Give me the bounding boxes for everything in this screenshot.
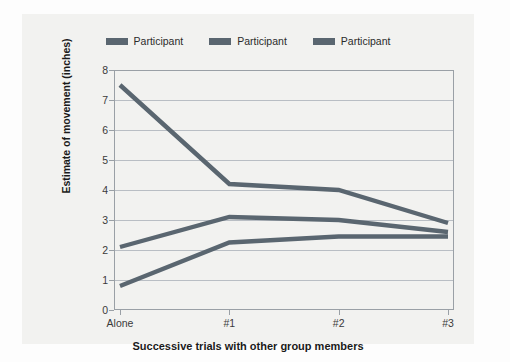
y-axis-tick-labels: 012345678 — [84, 70, 108, 310]
y-axis-tick-label: 8 — [102, 64, 108, 76]
series-line — [120, 217, 448, 247]
x-axis-tick-mark — [448, 310, 449, 315]
x-axis-tick-label: Alone — [107, 317, 134, 329]
x-axis-tick-label: #1 — [223, 317, 235, 329]
legend-item-label: Participant — [134, 36, 184, 47]
legend-swatch-icon — [106, 38, 128, 45]
y-axis-tick-label: 4 — [102, 184, 108, 196]
x-axis-title: Successive trials with other group membe… — [22, 340, 474, 352]
chart-figure: Participant Participant Participant Esti… — [0, 0, 510, 362]
x-axis-tick-mark — [120, 310, 121, 315]
legend-swatch-icon — [313, 38, 335, 45]
series-line — [120, 85, 448, 223]
legend-item-label: Participant — [237, 36, 287, 47]
x-axis-tick-mark — [229, 310, 230, 315]
x-axis-tick-label: #3 — [442, 317, 454, 329]
legend-item-label: Participant — [341, 36, 391, 47]
y-axis-tick-label: 5 — [102, 154, 108, 166]
legend-swatch-icon — [209, 38, 231, 45]
x-axis-tick-mark — [339, 310, 340, 315]
y-axis-tick-label: 2 — [102, 244, 108, 256]
x-axis-tick-label: #2 — [333, 317, 345, 329]
legend-item: Participant — [209, 36, 287, 47]
series-lines — [114, 70, 454, 310]
y-axis-tick-label: 0 — [102, 304, 108, 316]
plot-area — [114, 70, 454, 310]
y-axis-tick-label: 7 — [102, 94, 108, 106]
x-axis-tick-marks — [114, 310, 454, 315]
y-axis-tick-label: 3 — [102, 214, 108, 226]
x-axis-tick-labels: Alone#1#2#3 — [114, 317, 454, 333]
chart-legend: Participant Participant Participant — [22, 36, 474, 47]
y-axis-title: Estimate of movement (inches) — [60, 26, 72, 206]
legend-item: Participant — [313, 36, 391, 47]
series-line — [120, 237, 448, 287]
legend-item: Participant — [106, 36, 184, 47]
y-axis-tick-label: 1 — [102, 274, 108, 286]
chart-panel: Participant Participant Participant Esti… — [22, 14, 474, 344]
y-axis-tick-label: 6 — [102, 124, 108, 136]
